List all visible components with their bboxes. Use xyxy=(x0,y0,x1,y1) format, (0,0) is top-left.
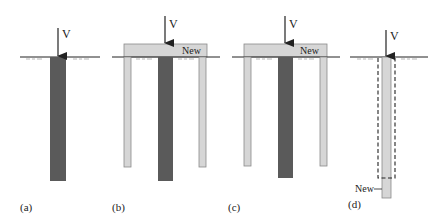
panel-caption: (a) xyxy=(20,201,33,214)
panel-c: V New (c) xyxy=(228,16,340,214)
panel-caption: (c) xyxy=(228,201,241,214)
new-label: New xyxy=(355,183,375,194)
load-label: V xyxy=(169,17,178,31)
existing-pile xyxy=(278,57,293,178)
panel-a: V (a) xyxy=(20,27,100,214)
new-pile-left xyxy=(244,57,251,166)
new-label: New xyxy=(300,45,320,56)
load-label: V xyxy=(289,17,298,31)
load-label: V xyxy=(62,27,71,41)
panel-b: V New (b) xyxy=(112,16,220,214)
load-label: V xyxy=(390,29,399,43)
new-pile-right xyxy=(199,57,206,167)
existing-pile xyxy=(50,57,66,181)
new-pile-left xyxy=(124,57,131,167)
existing-pile xyxy=(158,57,173,181)
new-label: New xyxy=(182,45,202,56)
new-pile xyxy=(382,57,391,198)
pile-retrofit-diagram: V (a) V New (b) V New (c) xyxy=(0,0,443,224)
panel-d: V New (d) xyxy=(348,29,428,211)
panel-caption: (b) xyxy=(112,201,125,214)
new-pile-right xyxy=(320,57,327,166)
panel-caption: (d) xyxy=(348,198,361,211)
